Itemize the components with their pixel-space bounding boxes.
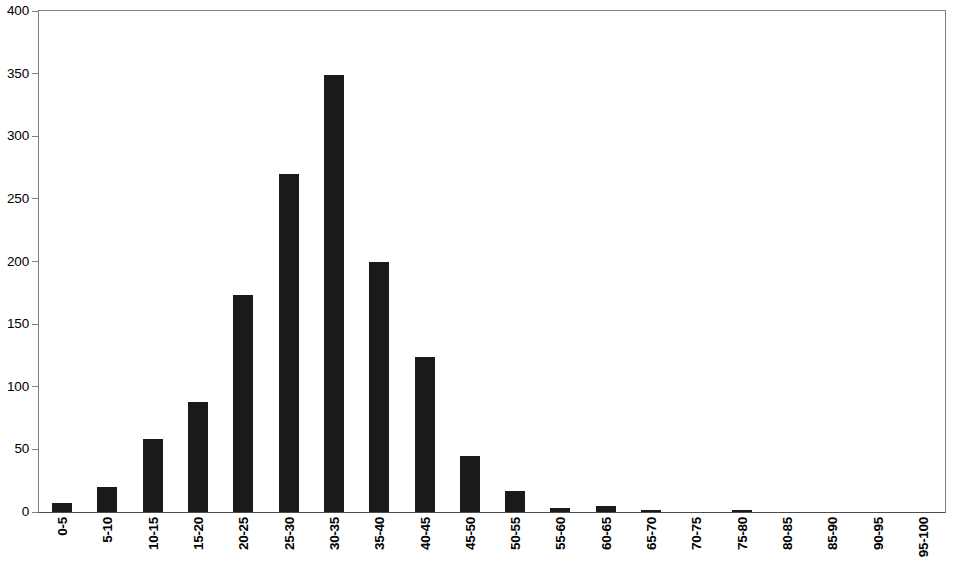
bar-slot	[493, 11, 538, 512]
y-axis-tick-label: 300	[7, 129, 29, 143]
y-axis-tick-label: 250	[7, 192, 29, 206]
x-axis-tick: 85-90	[810, 513, 855, 573]
bar	[188, 402, 208, 512]
bar-slot	[357, 11, 402, 512]
y-axis-tick-mark	[32, 198, 38, 199]
y-axis-tick-label: 350	[7, 67, 29, 81]
bar	[97, 487, 117, 512]
x-axis-tick: 80-85	[764, 513, 809, 573]
bar	[324, 75, 344, 512]
y-axis-tick-mark	[32, 73, 38, 74]
y-axis-tick-mark	[32, 386, 38, 387]
y-axis-tick-label: 150	[7, 317, 29, 331]
bar-chart: 050100150200250300350400 0-55-1010-1515-…	[0, 0, 953, 573]
y-axis-tick-mark	[32, 449, 38, 450]
y-axis-tick-mark	[32, 11, 38, 12]
bar-slot	[85, 11, 130, 512]
bar-slot	[175, 11, 220, 512]
bar-slot	[855, 11, 900, 512]
y-axis-tick-mark	[32, 324, 38, 325]
x-axis-tick-label: 90-95	[870, 517, 885, 550]
bar	[369, 262, 389, 513]
bar	[415, 357, 435, 512]
bar-slot	[583, 11, 628, 512]
bar-slot	[40, 11, 85, 512]
x-axis-tick: 95-100	[900, 513, 945, 573]
x-axis-tick: 55-60	[538, 513, 583, 573]
x-axis-tick: 20-25	[221, 513, 266, 573]
bar	[460, 456, 480, 512]
x-axis-tick: 50-55	[493, 513, 538, 573]
x-axis-tick: 5-10	[85, 513, 130, 573]
y-axis-tick-mark	[32, 136, 38, 137]
bar-slot	[674, 11, 719, 512]
x-axis-tick-label: 30-35	[326, 517, 341, 550]
bar-slot	[719, 11, 764, 512]
bar	[505, 491, 525, 512]
x-axis-tick: 90-95	[855, 513, 900, 573]
x-axis: 0-55-1010-1515-2020-2525-3030-3535-4040-…	[40, 513, 945, 573]
bar-slot	[130, 11, 175, 512]
x-axis-tick-label: 10-15	[145, 517, 160, 550]
bar-slot	[810, 11, 855, 512]
x-axis-tick: 25-30	[266, 513, 311, 573]
bars-layer	[40, 11, 945, 512]
y-axis-tick-mark	[32, 512, 38, 513]
x-axis-tick-label: 45-50	[462, 517, 477, 550]
bar	[143, 439, 163, 512]
bar-slot	[221, 11, 266, 512]
x-axis-tick: 0-5	[40, 513, 85, 573]
y-axis-tick-label: 200	[7, 255, 29, 269]
bar	[279, 174, 299, 512]
y-axis-tick-label: 100	[7, 380, 29, 394]
x-axis-tick-label: 55-60	[553, 517, 568, 550]
bar-slot	[538, 11, 583, 512]
bar	[596, 506, 616, 512]
bar	[641, 510, 661, 513]
y-axis-tick-label: 50	[14, 442, 29, 456]
x-axis-tick: 70-75	[674, 513, 719, 573]
x-axis-tick: 35-40	[357, 513, 402, 573]
x-axis-tick: 10-15	[130, 513, 175, 573]
x-axis-tick: 30-35	[311, 513, 356, 573]
x-axis-tick-label: 5-10	[100, 517, 115, 543]
bar	[732, 510, 752, 513]
x-axis-tick: 75-80	[719, 513, 764, 573]
x-axis-tick-label: 80-85	[779, 517, 794, 550]
x-axis-tick-label: 60-65	[598, 517, 613, 550]
bar	[550, 508, 570, 512]
y-axis-tick-label: 400	[7, 4, 29, 18]
bar	[233, 295, 253, 512]
bar-slot	[266, 11, 311, 512]
x-axis-tick: 60-65	[583, 513, 628, 573]
bar-slot	[447, 11, 492, 512]
bar-slot	[311, 11, 356, 512]
x-axis-tick-label: 35-40	[372, 517, 387, 550]
x-axis-tick-label: 95-100	[915, 517, 930, 557]
bar-slot	[900, 11, 945, 512]
x-axis-tick-label: 20-25	[236, 517, 251, 550]
x-axis-tick: 15-20	[175, 513, 220, 573]
y-axis-tick-mark	[32, 261, 38, 262]
x-axis-tick: 40-45	[402, 513, 447, 573]
x-axis-tick-label: 70-75	[689, 517, 704, 550]
x-axis-tick-label: 25-30	[281, 517, 296, 550]
bar-slot	[402, 11, 447, 512]
x-axis-tick-label: 65-70	[644, 517, 659, 550]
x-axis-tick-label: 75-80	[734, 517, 749, 550]
y-axis: 050100150200250300350400	[0, 0, 38, 523]
x-axis-tick: 45-50	[447, 513, 492, 573]
x-axis-tick: 65-70	[628, 513, 673, 573]
bar-slot	[628, 11, 673, 512]
x-axis-tick-label: 85-90	[825, 517, 840, 550]
bar	[52, 503, 72, 512]
x-axis-tick-label: 0-5	[55, 517, 70, 536]
x-axis-tick-label: 40-45	[417, 517, 432, 550]
x-axis-tick-label: 15-20	[191, 517, 206, 550]
y-axis-tick-label: 0	[22, 505, 29, 519]
bar-slot	[764, 11, 809, 512]
x-axis-tick-label: 50-55	[508, 517, 523, 550]
